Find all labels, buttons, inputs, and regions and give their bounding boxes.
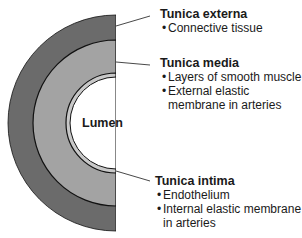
tunica-media-title: Tunica media [160, 56, 302, 70]
lumen-label: Lumen [82, 116, 123, 130]
tunica-intima-bullet: Internal elastic membrane in arteries [155, 202, 302, 230]
label-tunica-intima: Tunica intima Endothelium Internal elast… [155, 174, 302, 230]
label-tunica-externa: Tunica externa Connective tissue [160, 7, 300, 35]
tunica-media-bullet: External elastic membrane in arteries [160, 84, 302, 112]
tunica-externa-title: Tunica externa [160, 7, 300, 21]
tunica-media-bullet: Layers of smooth muscle [160, 70, 302, 84]
tunica-externa-bullet: Connective tissue [160, 21, 300, 35]
tunica-intima-title: Tunica intima [155, 174, 302, 188]
label-tunica-media: Tunica media Layers of smooth muscle Ext… [160, 56, 302, 112]
tunica-intima-bullet: Endothelium [155, 188, 302, 202]
